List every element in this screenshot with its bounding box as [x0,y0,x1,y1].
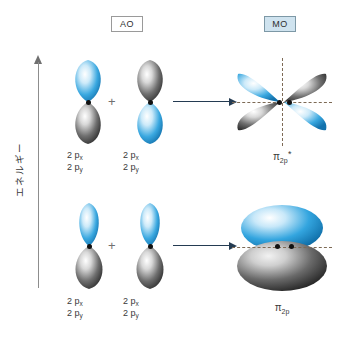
plus-operator-bonding: + [108,239,116,252]
plus-operator-antibonding: + [108,95,116,108]
node-dot-ao-left-antibonding [86,100,91,105]
mo-symbol-bonding: π [275,302,282,313]
transform-arrow-shaft-bonding [173,245,230,246]
ao-caption-left-antibonding-l1: 2 px [67,150,83,160]
node-dot-mo-left-antibonding [277,100,282,105]
column-header-mo: MO [264,16,296,32]
mo-subscript-antibonding: 2p [280,157,288,164]
ao-caption-right-antibonding-l1: 2 px [123,150,139,160]
mo-symbol-antibonding: π [273,151,280,162]
column-header-ao: AO [111,16,143,32]
ao-caption-right-antibonding-l2: 2 py [123,162,139,172]
ao-caption-right-antibonding: 2 px 2 py [123,150,139,173]
node-dot-ao-left-bonding [87,244,92,249]
nodal-line-horizontal-bonding [232,247,332,248]
mo-caption-antibonding: π2p* [252,151,312,162]
ao-caption-left-bonding: 2 px 2 py [67,296,83,319]
mo-star-antibonding: * [288,149,292,159]
ao-caption-left-bonding-l1: 2 px [67,296,83,306]
ao-caption-left-bonding-l2: 2 py [67,308,83,318]
node-dot-mo-right-bonding [289,244,294,249]
transform-arrow-shaft-antibonding [173,101,230,102]
ao-caption-right-bonding: 2 px 2 py [123,296,139,319]
energy-axis-line [38,62,39,288]
mo-subscript-bonding: 2p [282,308,290,315]
energy-axis-label: エネルギー [12,119,26,219]
mo-orbital-antibonding [234,60,330,144]
ao-caption-right-bonding-l2: 2 py [123,308,139,318]
node-dot-ao-right-bonding [148,244,153,249]
ao-caption-left-antibonding-l2: 2 py [67,162,83,172]
ao-caption-right-bonding-l1: 2 px [123,296,139,306]
node-dot-mo-right-antibonding [287,100,292,105]
mo-caption-bonding: π2p [252,302,312,313]
ao-caption-left-antibonding: 2 px 2 py [67,150,83,173]
node-dot-ao-right-antibonding [148,100,153,105]
mo-diagram-canvas: AO MO エネルギー + [0,0,337,337]
node-dot-mo-left-bonding [275,244,280,249]
